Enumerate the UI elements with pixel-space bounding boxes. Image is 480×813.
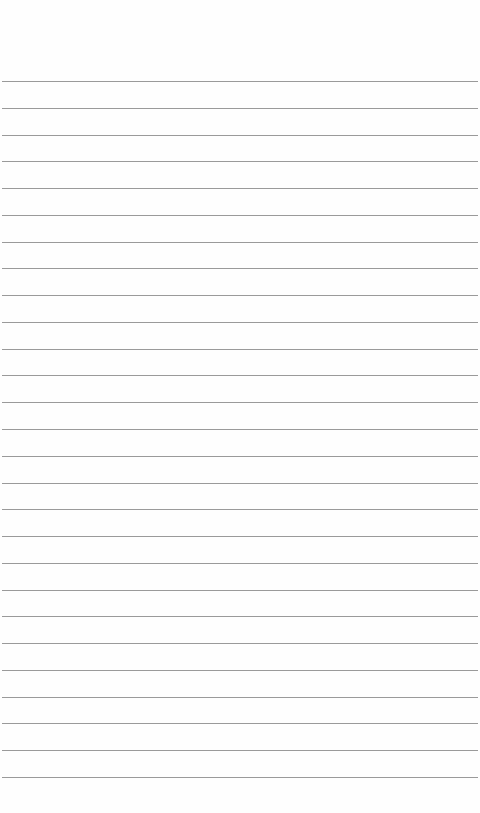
ruled-line xyxy=(2,590,478,591)
ruled-line xyxy=(2,429,478,430)
ruled-line xyxy=(2,456,478,457)
ruled-line xyxy=(2,483,478,484)
ruled-line xyxy=(2,777,478,778)
ruled-line xyxy=(2,268,478,269)
ruled-line xyxy=(2,135,478,136)
ruled-line xyxy=(2,643,478,644)
ruled-line xyxy=(2,750,478,751)
ruled-line xyxy=(2,375,478,376)
ruled-line xyxy=(2,563,478,564)
ruled-line xyxy=(2,616,478,617)
ruled-line xyxy=(2,215,478,216)
ruled-line xyxy=(2,295,478,296)
ruled-line xyxy=(2,509,478,510)
ruled-line xyxy=(2,402,478,403)
ruled-line xyxy=(2,670,478,671)
ruled-line xyxy=(2,322,478,323)
ruled-line xyxy=(2,536,478,537)
ruled-line xyxy=(2,81,478,82)
lined-paper-sheet xyxy=(0,0,480,813)
ruled-line xyxy=(2,188,478,189)
ruled-line xyxy=(2,108,478,109)
ruled-line xyxy=(2,349,478,350)
ruled-line xyxy=(2,242,478,243)
ruled-line xyxy=(2,723,478,724)
ruled-line xyxy=(2,697,478,698)
ruled-line xyxy=(2,161,478,162)
